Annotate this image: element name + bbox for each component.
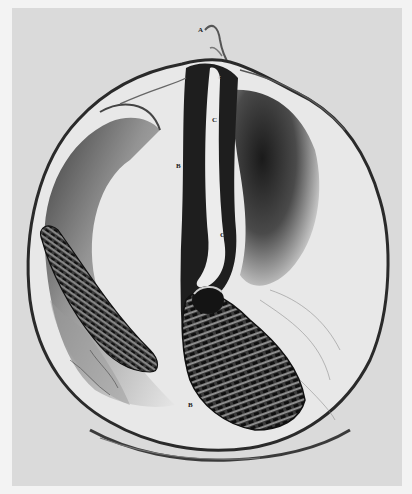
label-b-upper: B — [176, 163, 181, 170]
specimen-illustration — [0, 0, 412, 494]
label-c-upper: C — [212, 117, 217, 124]
label-a: A — [198, 27, 203, 34]
label-c-lower: C — [220, 232, 225, 239]
label-b-lower: B — [188, 402, 193, 409]
label-c-small: c — [218, 74, 221, 80]
